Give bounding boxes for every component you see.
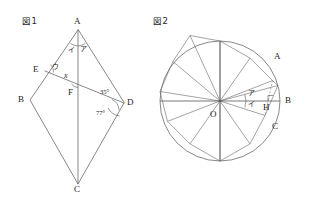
angle-arc-d-lower [108, 108, 120, 116]
figure-1-vertex-f: F [68, 88, 73, 97]
figure-2-center-o: O [210, 110, 217, 119]
figure-1-angle-e: ウ [52, 64, 59, 71]
figure-1-angle-d-upper: 35° [100, 89, 109, 96]
figure-2-vertex-c: C [272, 122, 278, 131]
angle-arc-d-upper [112, 100, 119, 111]
figure-2-vertex-b: B [285, 96, 291, 105]
figure-2: 図2 [152, 0, 311, 204]
figure-1-angle-a-right: ア [80, 46, 87, 53]
figure-1-vertex-e: E [33, 65, 39, 74]
angle-arc-o-lower [245, 101, 246, 108]
angle-arc-o-upper [245, 95, 246, 102]
figure-2-angle-upper: ア [248, 90, 255, 97]
figure-1-vertex-b: B [18, 95, 24, 104]
figure-1-angle-f: x [64, 72, 68, 80]
figure-1-vertex-a: A [74, 17, 81, 26]
figure-2-angle-lower: イ [248, 101, 255, 108]
figure-2-vertex-a: A [274, 52, 281, 61]
figure-1-angle-a-left: イ [68, 47, 75, 54]
figure-2-vertex-h: H [263, 103, 270, 112]
figure-1-vertex-d: D [127, 98, 134, 107]
kite-outline [30, 30, 124, 184]
figure-1-vertex-c: C [74, 185, 80, 194]
segment-ed [45, 71, 124, 103]
axis-lines [160, 41, 280, 161]
figure-1-angle-d-lower: 77° [96, 110, 105, 117]
figure-sheet: 図1 A B [0, 0, 311, 204]
figure-1: 図1 A B [0, 0, 155, 204]
